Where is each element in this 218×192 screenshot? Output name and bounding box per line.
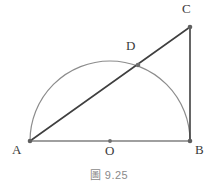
semicircle-arc [30, 61, 190, 141]
vertex-label-c: C [182, 2, 191, 15]
geometry-diagram [0, 0, 218, 192]
vertex-label-d: D [126, 39, 135, 52]
vertex-dot-b [188, 139, 193, 144]
vertex-label-b: B [195, 143, 204, 156]
figure-caption: 圖 9.25 [0, 168, 218, 182]
vertex-dot-d [136, 63, 141, 68]
vertex-dot-a [28, 139, 33, 144]
figure-caption-text: 圖 9.25 [90, 169, 128, 181]
vertex-label-a: A [12, 143, 21, 156]
vertex-dot-c [188, 25, 193, 30]
figure-container: A B C D O 圖 9.25 [0, 0, 218, 192]
vertex-label-o: O [105, 144, 114, 157]
